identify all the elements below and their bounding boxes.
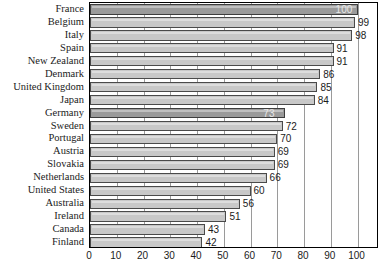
bar-value-label: 85	[320, 82, 331, 93]
bar-row: 66	[90, 173, 377, 183]
x-axis-tick-labels: 0102030405060708090100	[89, 250, 378, 266]
bar-highlight-shade	[92, 32, 350, 34]
bar-value-label: 60	[254, 185, 265, 196]
bar	[90, 134, 277, 144]
category-axis-labels: FranceBelgiumItalySpainNew ZealandDenmar…	[0, 2, 86, 248]
category-label: Japan	[0, 94, 84, 105]
category-label: Germany	[0, 107, 84, 118]
bar-value-label: 66	[270, 172, 281, 183]
x-tick-label: 30	[164, 250, 175, 262]
bar-chart: FranceBelgiumItalySpainNew ZealandDenmar…	[0, 0, 387, 277]
bar-highlight-shade	[92, 97, 313, 99]
category-label: Sweden	[0, 120, 84, 131]
bar-row: 91	[90, 43, 377, 53]
bar-row: 51	[90, 211, 377, 221]
bar-highlight-shade	[92, 6, 356, 8]
bar-highlight-shade	[92, 19, 353, 21]
bar-highlight-shade	[92, 213, 224, 215]
bar-highlight-shade	[92, 110, 283, 112]
bar-highlight-shade	[92, 162, 273, 164]
x-tick-label: 70	[271, 250, 282, 262]
category-label: Belgium	[0, 16, 84, 27]
bar-row: 86	[90, 69, 377, 79]
category-label: Italy	[0, 29, 84, 40]
x-tick-label: 90	[324, 250, 335, 262]
x-tick-label: 50	[217, 250, 228, 262]
bar-value-label: 99	[358, 17, 369, 28]
bar-value-label: 98	[355, 30, 366, 41]
bar-highlight-shade	[92, 201, 238, 203]
x-tick-label: 60	[244, 250, 255, 262]
category-label: Finland	[0, 236, 84, 247]
bar-highlight-shade	[92, 123, 281, 125]
bar-row: 70	[90, 134, 377, 144]
bar-row: 69	[90, 147, 377, 157]
bar-value-label: 84	[318, 95, 329, 106]
bar-value-label: 73	[263, 108, 274, 119]
x-tick-label: 20	[137, 250, 148, 262]
plot-area: 100999891918685847372706969666056514342	[89, 2, 378, 248]
bar	[90, 173, 267, 183]
bar	[90, 199, 240, 209]
category-label: Ireland	[0, 210, 84, 221]
bar-value-label: 72	[286, 121, 297, 132]
bar-row: 60	[90, 186, 377, 196]
bar-highlight-shade	[92, 58, 332, 60]
bar-value-label: 86	[323, 69, 334, 80]
bar-row: 43	[90, 224, 377, 234]
x-tick-label: 40	[190, 250, 201, 262]
bar	[90, 4, 358, 14]
x-tick-label: 10	[110, 250, 121, 262]
bar-highlight-shade	[92, 188, 249, 190]
bar-value-label: 69	[278, 159, 289, 170]
bar-highlight-shade	[92, 175, 265, 177]
bar-value-label: 43	[208, 224, 219, 235]
bar	[90, 56, 334, 66]
category-label: France	[0, 3, 84, 14]
bar	[90, 121, 283, 131]
bar	[90, 82, 317, 92]
category-label: United Kingdom	[0, 81, 84, 92]
bar-row: 98	[90, 30, 377, 40]
category-label: Australia	[0, 197, 84, 208]
category-label: Denmark	[0, 68, 84, 79]
bar-row: 69	[90, 160, 377, 170]
x-tick-label: 100	[348, 250, 365, 262]
bar-row: 56	[90, 199, 377, 209]
category-label: Portugal	[0, 132, 84, 143]
category-label: United States	[0, 184, 84, 195]
x-tick-label: 0	[86, 250, 92, 262]
bar	[90, 147, 275, 157]
bar-highlight-shade	[92, 71, 318, 73]
bar-row: 99	[90, 17, 377, 27]
bar	[90, 186, 251, 196]
bar-value-label: 100	[336, 4, 353, 15]
bar-value-label: 91	[337, 43, 348, 54]
category-label: Austria	[0, 145, 84, 156]
bar	[90, 237, 202, 247]
bar-highlight-shade	[92, 84, 315, 86]
bar	[90, 43, 334, 53]
bar-row: 73	[90, 108, 377, 118]
bar-row: 84	[90, 95, 377, 105]
bar-value-label: 69	[278, 146, 289, 157]
bar-value-label: 91	[337, 56, 348, 67]
bar-highlight-shade	[92, 45, 332, 47]
bar-highlight-shade	[92, 239, 200, 241]
bar-value-label: 42	[205, 237, 216, 248]
bar-highlight-shade	[92, 136, 275, 138]
bar	[90, 224, 205, 234]
bar	[90, 95, 315, 105]
bar	[90, 211, 226, 221]
bar-row: 72	[90, 121, 377, 131]
bar-value-label: 70	[280, 133, 291, 144]
bar-row: 42	[90, 237, 377, 247]
category-label: Netherlands	[0, 171, 84, 182]
bar-value-label: 56	[243, 198, 254, 209]
category-label: Slovakia	[0, 158, 84, 169]
bar-row: 91	[90, 56, 377, 66]
bar	[90, 108, 285, 118]
category-label: Canada	[0, 223, 84, 234]
bar-highlight-shade	[92, 149, 273, 151]
bar	[90, 160, 275, 170]
